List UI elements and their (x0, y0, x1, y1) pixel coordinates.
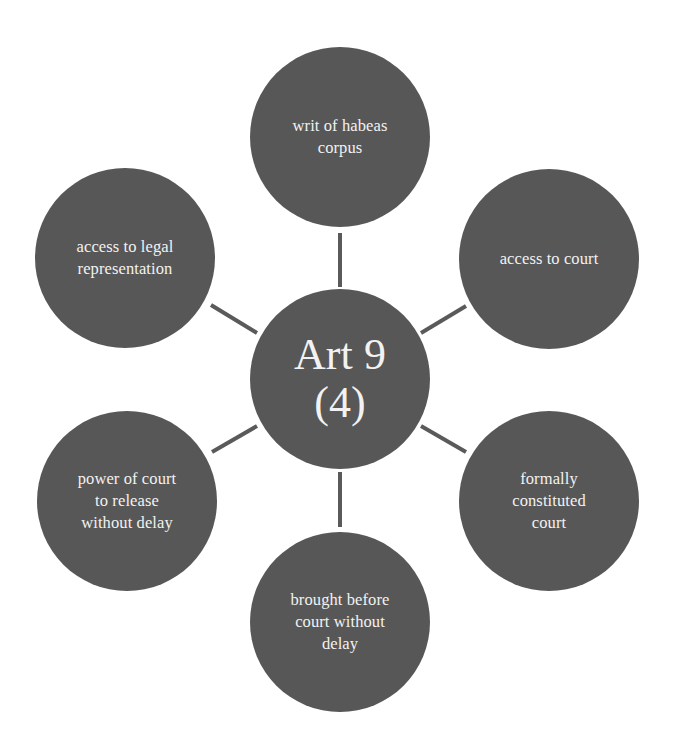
node-access-to-court: access to court (459, 169, 639, 349)
node-label: power of court to release without delay (78, 468, 177, 534)
art9-hub-diagram: writ of habeas corpus access to court fo… (0, 0, 674, 746)
node-label: access to court (500, 248, 599, 270)
node-power-of-court-to-release: power of court to release without delay (37, 411, 217, 591)
node-access-to-legal-representation: access to legal representation (35, 168, 215, 348)
center-node-art-9-4: Art 9 (4) (250, 289, 430, 469)
connector-upper-right (421, 306, 466, 333)
center-label: Art 9 (4) (294, 331, 386, 427)
node-writ-of-habeas-corpus: writ of habeas corpus (250, 47, 430, 227)
node-brought-before-court-without-delay: brought before court without delay (250, 532, 430, 712)
node-label: writ of habeas corpus (293, 115, 388, 159)
connector-lower-left (212, 426, 257, 452)
node-label: formally constituted court (512, 468, 586, 534)
connector-lower-right (421, 426, 466, 452)
node-label: brought before court without delay (291, 589, 390, 655)
connector-upper-left (211, 305, 257, 333)
node-formally-constituted-court: formally constituted court (459, 411, 639, 591)
node-label: access to legal representation (77, 236, 174, 280)
